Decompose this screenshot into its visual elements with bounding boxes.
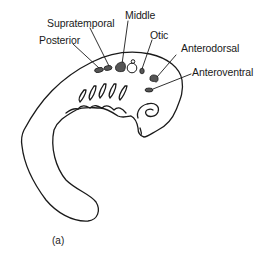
leader-supratemporal (90, 28, 109, 66)
label-middle: Middle (125, 9, 155, 21)
middle-placode (115, 62, 125, 72)
otic-vesicle (127, 63, 137, 73)
label-otic: Otic (150, 29, 168, 41)
pharyngeal-base-line (66, 106, 126, 113)
pharyngeal-cleft-4 (109, 84, 116, 98)
label-anteroventral: Anteroventral (192, 66, 253, 78)
pharyngeal-cleft-5 (119, 86, 127, 100)
supratemporal-placode (104, 65, 113, 71)
pharyngeal-cleft-3 (99, 84, 106, 98)
figure-caption: (a) (52, 235, 64, 247)
pharyngeal-cleft-2 (89, 86, 96, 100)
endolymphatic-bud (131, 60, 135, 64)
leader-anteroventral (153, 74, 191, 89)
label-posterior: Posterior (39, 34, 80, 46)
mouth-curl (137, 103, 158, 118)
anteroventral-placode (145, 88, 153, 92)
anterodorsal-placode (150, 75, 158, 82)
leader-middle (122, 21, 128, 64)
label-anterodorsal: Anterodorsal (181, 42, 239, 54)
label-supratemporal: Supratemporal (47, 17, 115, 29)
leader-posterior (73, 44, 99, 68)
body-outline (22, 52, 183, 221)
embryo-placode-diagram: Supratemporal Middle Otic Posterior Ante… (0, 0, 263, 261)
posterior-placode (94, 67, 104, 74)
leader-anterodorsal (157, 55, 176, 77)
otic-adjacent-placode (140, 68, 144, 74)
pharyngeal-cleft-1 (79, 90, 86, 102)
